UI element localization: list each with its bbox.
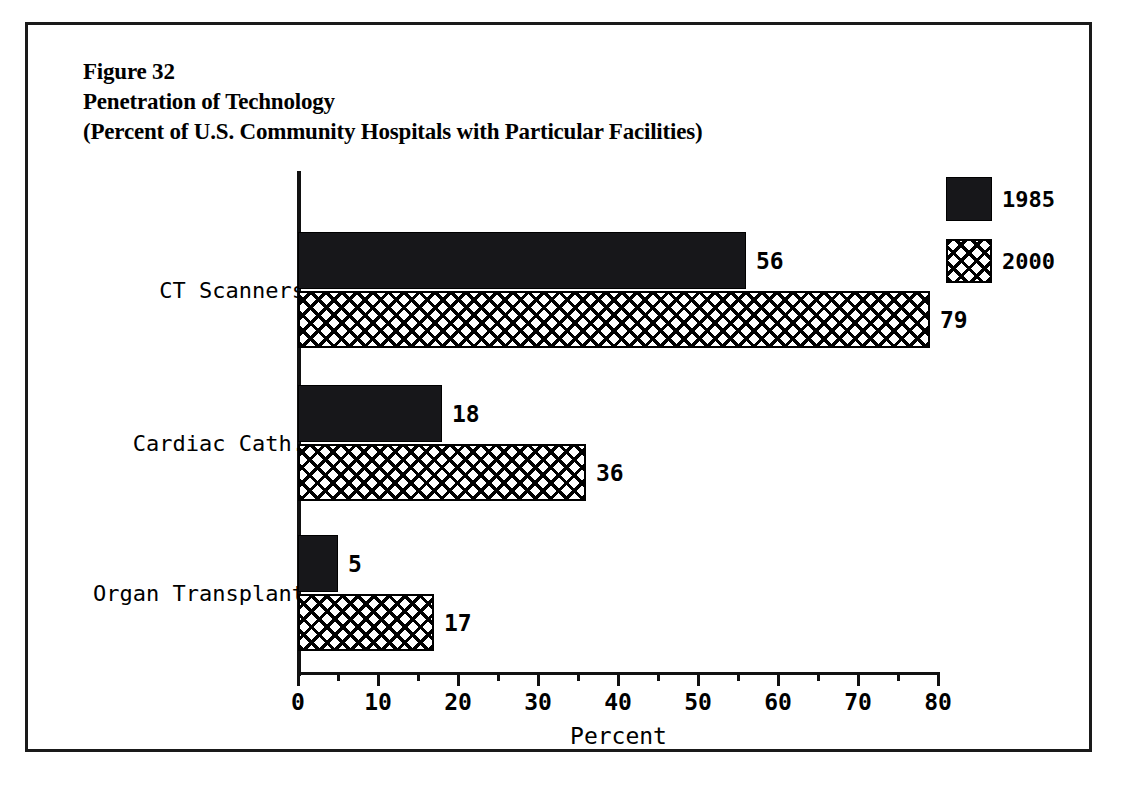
x-tick-major	[617, 675, 620, 686]
x-tick-major	[537, 675, 540, 686]
category-label-organ-transplant: Organ Transplant	[93, 581, 305, 606]
legend-swatch-2000	[946, 239, 992, 283]
bar-value-label: 79	[940, 307, 968, 333]
x-tick-label: 50	[684, 689, 712, 715]
bar-value-label: 36	[596, 460, 624, 486]
x-tick-minor	[417, 675, 420, 681]
x-tick-label: 80	[924, 689, 952, 715]
bar-1985-cardiac-cath	[298, 385, 442, 442]
legend-label-2000: 2000	[1002, 249, 1055, 274]
x-tick-label: 30	[524, 689, 552, 715]
bar-value-label: 17	[444, 610, 472, 636]
category-label-ct-scanners: CT Scanners	[159, 278, 305, 303]
x-tick-major	[377, 675, 380, 686]
bar-2000-cardiac-cath	[298, 444, 586, 501]
bar-value-label: 56	[756, 248, 784, 274]
bar-1985-organ-transplant	[298, 535, 338, 592]
legend-item-1985: 1985	[946, 177, 1055, 221]
x-tick-minor	[497, 675, 500, 681]
category-label-cardiac-cath: Cardiac Cath.	[133, 431, 305, 456]
x-tick-major	[697, 675, 700, 686]
x-tick-label: 40	[604, 689, 632, 715]
x-tick-label: 70	[844, 689, 872, 715]
legend-swatch-1985	[946, 177, 992, 221]
x-tick-label: 20	[444, 689, 472, 715]
x-tick-major	[297, 675, 300, 686]
x-tick-minor	[737, 675, 740, 681]
bar-value-label: 18	[452, 401, 480, 427]
legend-label-1985: 1985	[1002, 187, 1055, 212]
legend-item-2000: 2000	[946, 239, 1055, 283]
x-tick-label: 10	[364, 689, 392, 715]
x-tick-minor	[337, 675, 340, 681]
bar-2000-organ-transplant	[298, 594, 434, 651]
x-tick-label: 60	[764, 689, 792, 715]
bar-value-label: 5	[348, 551, 362, 577]
figure-frame: Figure 32 Penetration of Technology (Per…	[25, 22, 1092, 752]
x-tick-minor	[657, 675, 660, 681]
x-tick-major	[777, 675, 780, 686]
bar-2000-ct-scanners	[298, 291, 930, 348]
x-tick-label: 0	[291, 689, 305, 715]
x-tick-major	[457, 675, 460, 686]
x-tick-minor	[897, 675, 900, 681]
x-tick-major	[937, 675, 940, 686]
x-axis-title: Percent	[297, 723, 940, 749]
bar-1985-ct-scanners	[298, 232, 746, 289]
x-tick-minor	[577, 675, 580, 681]
x-tick-minor	[817, 675, 820, 681]
x-tick-major	[857, 675, 860, 686]
plot-area: 01020304050607080 Percent CT ScannersCar…	[28, 25, 1095, 755]
